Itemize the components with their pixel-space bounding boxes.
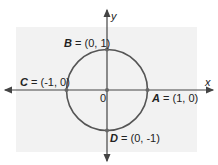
x-axis-label: x: [205, 77, 211, 88]
point-d-label: D = (0, -1): [110, 133, 160, 144]
point-d: [105, 129, 109, 133]
y-axis-label: y: [111, 11, 117, 22]
point-c-label: C = (-1, 0): [20, 77, 70, 88]
point-a-label: A = (1, 0): [152, 93, 198, 104]
point-c: [65, 88, 69, 92]
origin-label: 0: [100, 93, 106, 104]
point-a: [146, 88, 150, 92]
point-b-label: B = (0, 1): [64, 38, 110, 49]
